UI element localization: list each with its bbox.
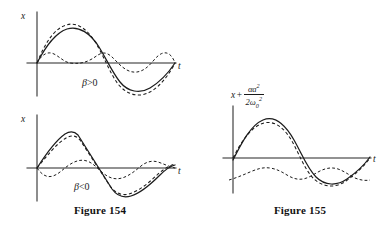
y-axis-label-plus: + <box>237 91 242 101</box>
beta-relation: >0 <box>87 77 98 88</box>
plot-shifted-oscillation <box>195 78 390 198</box>
dashed-anharmonic-curve <box>37 136 175 195</box>
beta-positive-annotation: β>0 <box>82 78 98 88</box>
figures-page: x t β>0 x t <box>0 0 390 228</box>
caption-figure-154: Figure 154 <box>40 205 160 216</box>
denominator-subscript: 0 <box>256 101 259 108</box>
denominator-exponent: 2 <box>259 95 262 102</box>
y-axis-label: x <box>21 115 25 125</box>
plot-beta-negative <box>0 103 195 203</box>
numerator-base: αa <box>248 84 257 94</box>
y-axis-compound-label: x + αa2 2ω02 <box>231 83 264 108</box>
fraction-numerator: αa2 <box>246 83 261 94</box>
figure-154-panel-beta-negative: x t β<0 <box>0 103 195 203</box>
solid-fundamental-curve <box>37 132 175 197</box>
figure-154-panel-beta-positive: x t β>0 <box>0 0 195 100</box>
beta-negative-annotation: β<0 <box>74 182 90 192</box>
numerator-exponent: 2 <box>257 82 260 89</box>
fraction-denominator: 2ω02 <box>244 95 263 108</box>
beta-relation: <0 <box>79 181 90 192</box>
x-axis-label: t <box>178 167 181 177</box>
dashed-offset-ripple-curve <box>229 168 370 181</box>
y-axis-label-lead: x <box>231 91 235 101</box>
caption-figure-155: Figure 155 <box>240 205 360 216</box>
x-axis-label: t <box>178 62 181 72</box>
figure-155-panel: x + αa2 2ω02 t <box>195 78 390 198</box>
dashed-ripple-curve <box>37 160 175 179</box>
x-axis-label: t <box>373 155 376 165</box>
denominator-base: 2ω <box>246 96 256 106</box>
y-axis-label: x <box>21 12 25 22</box>
y-axis-label-fraction: αa2 2ω02 <box>244 83 263 108</box>
